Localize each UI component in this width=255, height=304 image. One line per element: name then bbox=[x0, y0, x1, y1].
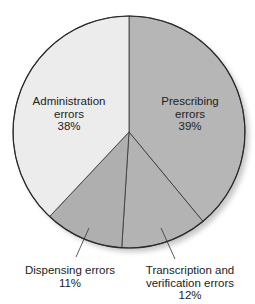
label-dispensing-percent: 11% bbox=[20, 277, 120, 290]
label-transcription-line2: verification errors bbox=[135, 277, 245, 290]
label-prescribing-percent: 39% bbox=[145, 120, 235, 133]
label-prescribing-line1: Prescribing bbox=[145, 95, 235, 108]
label-administration-percent: 38% bbox=[20, 120, 118, 133]
label-administration: Administration errors 38% bbox=[20, 95, 118, 133]
label-dispensing: Dispensing errors 11% bbox=[20, 264, 120, 289]
label-dispensing-line1: Dispensing errors bbox=[20, 264, 120, 277]
pie-chart bbox=[0, 0, 255, 304]
label-transcription-percent: 12% bbox=[135, 289, 245, 302]
label-prescribing: Prescribing errors 39% bbox=[145, 95, 235, 133]
label-transcription-line1: Transcription and bbox=[135, 264, 245, 277]
label-prescribing-line2: errors bbox=[145, 108, 235, 121]
label-administration-line2: errors bbox=[20, 108, 118, 121]
label-administration-line1: Administration bbox=[20, 95, 118, 108]
label-transcription: Transcription and verification errors 12… bbox=[135, 264, 245, 302]
